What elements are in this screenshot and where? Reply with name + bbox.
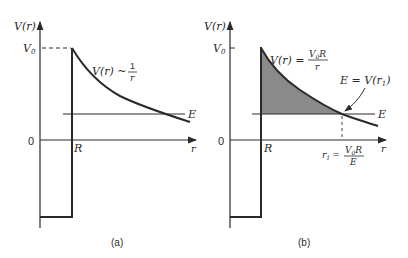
zero-tick-label: 0 [218, 135, 224, 147]
potential-well [230, 47, 261, 217]
energy-label: E [377, 108, 386, 121]
svg-text:V(r) ~: V(r) ~ [92, 65, 127, 78]
v0-tick-label: V0 [213, 42, 226, 56]
turning-point-pointer [345, 88, 365, 111]
panel-caption-a: (a) [111, 237, 123, 248]
panel-b: V(r) V0 0 R r E V(r) = V0R r E = V(r1) r… [204, 20, 391, 248]
R-tick-label: R [73, 142, 82, 155]
svg-text:V0R: V0R [345, 145, 362, 156]
v0-tick-label: V0 [23, 42, 36, 56]
potential-well [40, 48, 72, 217]
coulomb-curve [72, 48, 190, 122]
panel-caption-b: (b) [298, 237, 310, 248]
svg-text:1: 1 [130, 61, 135, 71]
svg-text:V(r) =: V(r) = [270, 54, 305, 67]
svg-text:r1=: r1= [322, 150, 340, 161]
y-axis-label: V(r) [14, 20, 36, 33]
r-axis-label: r [191, 143, 197, 154]
zero-tick-label: 0 [28, 135, 34, 147]
energy-label: E [187, 108, 196, 121]
turning-point-label: E = V(r1) [339, 74, 391, 88]
r1-formula-label: r1= V0R E [322, 145, 364, 167]
coulomb-barrier-figure: V(r) V0 0 R r E V(r) ~ 1 r (a) [0, 0, 408, 258]
R-tick-label: R [263, 142, 272, 155]
svg-text:V0R: V0R [309, 49, 326, 60]
y-axis-label: V(r) [204, 20, 226, 33]
svg-text:E: E [349, 157, 357, 167]
curve-formula-label: V(r) = V0R r [270, 49, 328, 72]
panel-a: V(r) V0 0 R r E V(r) ~ 1 r (a) [14, 20, 197, 248]
svg-text:r: r [130, 73, 135, 83]
r-axis-label: r [381, 143, 387, 154]
svg-text:r: r [315, 62, 320, 72]
